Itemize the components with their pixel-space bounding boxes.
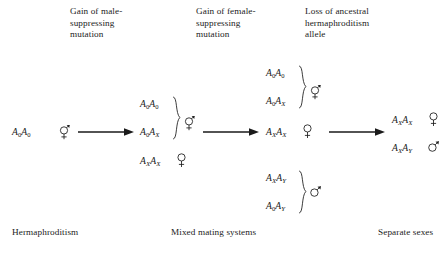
genotype-text: A0AY — [266, 200, 285, 211]
genotype-text: A0AX — [140, 126, 160, 137]
genotype-stage4-axax: AXAX — [392, 114, 412, 126]
genotype-stage4-axay: AXAY — [392, 142, 412, 154]
arrow-stage1-to-stage2 — [78, 127, 136, 137]
genotype-text: AXAX — [140, 155, 160, 166]
stage-label-hermaphroditism: Hermaphroditism — [12, 227, 78, 239]
genotype-stage2-a0a0: A0A0 — [140, 98, 159, 110]
genotype-stage2-a0ax: A0AX — [140, 126, 160, 138]
male-symbol-stage3 — [309, 184, 323, 198]
genotype-stage3-axay: AXAY — [266, 172, 286, 184]
header-gain-male-suppressing: Gain of male- suppressing mutation — [70, 6, 175, 41]
genotype-stage1-a0a0: A0A0 — [12, 126, 31, 138]
genotype-text: AXAX — [392, 114, 412, 125]
header-loss-ancestral-allele: Loss of ancestral hermaphroditism allele — [305, 6, 420, 41]
evolution-of-separate-sexes-diagram: Gain of male- suppressing mutation Gain … — [0, 0, 448, 254]
female-symbol-stage2 — [176, 152, 187, 168]
male-symbol-stage4 — [427, 139, 441, 153]
hermaphrodite-symbol-stage3 — [309, 82, 321, 100]
genotype-text: A0A0 — [12, 126, 31, 137]
hermaphrodite-symbol-stage1 — [58, 122, 70, 140]
genotype-text: AXAY — [266, 172, 286, 183]
arrow-stage3-to-stage4 — [329, 127, 387, 137]
header-gain-female-suppressing: Gain of female- suppressing mutation — [196, 6, 306, 41]
arrow-stage2-to-stage3 — [203, 127, 261, 137]
female-symbol-stage4 — [428, 111, 439, 127]
genotype-stage3-a0ay: A0AY — [266, 200, 285, 212]
genotype-text: A0AX — [266, 95, 286, 106]
stage-label-mixed-mating-systems: Mixed mating systems — [171, 227, 256, 239]
female-symbol-stage3 — [302, 123, 313, 139]
genotype-text: A0A0 — [140, 98, 159, 109]
genotype-text: AXAX — [266, 126, 286, 137]
genotype-stage3-axax: AXAX — [266, 126, 286, 138]
stage-label-separate-sexes: Separate sexes — [378, 227, 433, 239]
genotype-stage3-a0ax: A0AX — [266, 95, 286, 107]
genotype-stage2-axax: AXAX — [140, 155, 160, 167]
genotype-text: A0A0 — [266, 67, 285, 78]
hermaphrodite-symbol-stage2 — [183, 113, 195, 131]
genotype-stage3-a0a0: A0A0 — [266, 67, 285, 79]
genotype-text: AXAY — [392, 142, 412, 153]
